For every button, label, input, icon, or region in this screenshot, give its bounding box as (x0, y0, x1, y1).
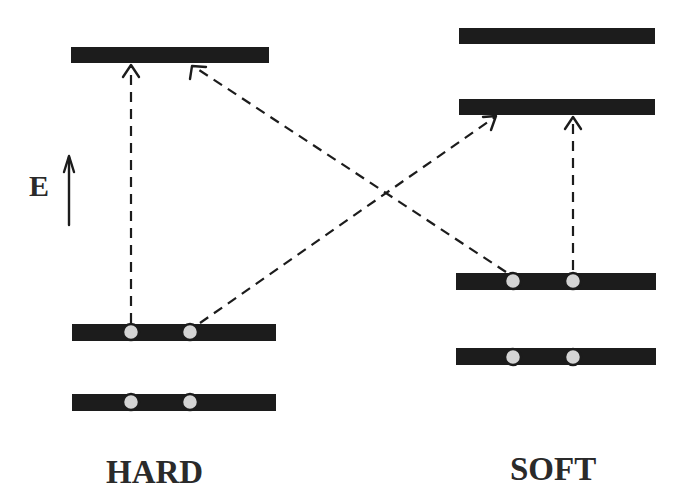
electron-icon (123, 324, 139, 340)
transition-hard-to-soft (200, 117, 495, 323)
electron-icon (505, 273, 521, 289)
transition-soft-to-hard (193, 66, 506, 272)
hard-low-level (72, 394, 276, 411)
soft-lumo-level (459, 99, 655, 115)
energy-level-diagram (0, 0, 682, 503)
energy-axis-label: E (29, 171, 49, 201)
hard-empty-level (71, 47, 269, 63)
electron-icon (565, 349, 581, 365)
electron-icon (505, 349, 521, 365)
soft-group-label: SOFT (510, 451, 596, 487)
soft-empty-high-level (459, 28, 655, 44)
electron-icon (565, 273, 581, 289)
electron-icon (182, 324, 198, 340)
electron-icon (182, 394, 198, 410)
soft-low-level (456, 348, 656, 365)
electron-icon (123, 394, 139, 410)
hard-group-label: HARD (106, 454, 203, 490)
soft-homo-level (456, 273, 656, 290)
hard-homo-level (72, 324, 276, 341)
